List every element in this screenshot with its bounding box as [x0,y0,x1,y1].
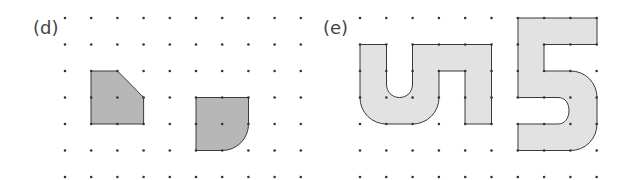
grid-dot [543,176,546,179]
grid-dot [569,96,572,99]
shapes-e [360,18,597,151]
panel-d: (d) [33,17,302,179]
grid-dot [517,123,520,126]
grid-dot [543,17,546,20]
grid-dot [359,149,362,152]
grid-dot [385,123,388,126]
grid-dot [221,43,224,46]
grid-dot [142,123,145,126]
grid-dot [595,123,598,126]
grid-dot [169,149,172,152]
grid-dot [90,96,93,99]
grid-dot [569,176,572,179]
grid-dot [595,149,598,152]
grid-dot [195,70,198,73]
grid-dot [273,123,276,126]
grid-dot [464,70,467,73]
grid-dot [116,149,119,152]
grid-dot [464,123,467,126]
panel-e: (e) [323,17,598,179]
grid-dot [464,17,467,20]
grid-dot [543,43,546,46]
grid-dot [195,123,198,126]
grid-dot [517,70,520,73]
grid-dot [273,96,276,99]
grid-dot [438,96,441,99]
grid-dot [169,176,172,179]
grid-dot [90,176,93,179]
grid-dot [517,176,520,179]
grid-dot [247,123,250,126]
grid-dot [247,70,250,73]
grid-dot [195,43,198,46]
grid-dot [273,149,276,152]
grid-dot [169,43,172,46]
grid-dot [300,149,303,152]
grid-dot [464,96,467,99]
grid-dot [595,70,598,73]
grid-dot [385,96,388,99]
grid-dot [595,96,598,99]
grid-dot [517,43,520,46]
grid-dot [411,70,414,73]
grid-dot [411,123,414,126]
grid-dot [195,149,198,152]
grid-dot [300,17,303,20]
grid-dot [221,149,224,152]
grid-dot [300,43,303,46]
grid-dot [169,17,172,20]
grid-dot [142,149,145,152]
grid-dot [116,96,119,99]
grid-dot [569,43,572,46]
grid-dot [517,96,520,99]
grid-dot [543,149,546,152]
grid-dot [90,123,93,126]
grid-dot [64,176,67,179]
grid-dot [464,149,467,152]
grid-dot [517,149,520,152]
grid-dot [247,96,250,99]
grid-dot [490,176,493,179]
grid-dot [490,70,493,73]
grid-dot [300,123,303,126]
grid-dot [195,176,198,179]
grid-dot [64,96,67,99]
grid-dot [490,43,493,46]
grid-dot [116,70,119,73]
grid-dot [490,149,493,152]
panel-label-d: (d) [33,17,58,38]
grid-dot [464,43,467,46]
grid-dot [569,70,572,73]
grid-dot [438,149,441,152]
panel-label-e: (e) [323,17,348,38]
digit-five-shape [518,18,597,151]
grid-dot [438,176,441,179]
grid-dot [359,70,362,73]
grid-dot [116,43,119,46]
grid-dot [221,176,224,179]
grid-dot [569,17,572,20]
grid-dot [385,17,388,20]
grid-dot [195,96,198,99]
grid-dot [142,70,145,73]
dot-grid-diagram: (d) (e) [0,0,623,180]
grid-dot [273,43,276,46]
grid-dot [142,96,145,99]
shapes-d [91,71,249,151]
grid-dot [438,123,441,126]
grid-dot [64,43,67,46]
grid-dot [247,17,250,20]
grid-dot [142,17,145,20]
grid-dot [90,149,93,152]
grid-dot [142,43,145,46]
grid-dot [90,17,93,20]
grid-dot [490,17,493,20]
grid-dot [359,43,362,46]
grid-dot [221,96,224,99]
grid-dot [221,70,224,73]
grid-dot [116,123,119,126]
grid-dot [411,149,414,152]
grid-dot [64,17,67,20]
grid-dot [273,70,276,73]
grid-dot [247,176,250,179]
